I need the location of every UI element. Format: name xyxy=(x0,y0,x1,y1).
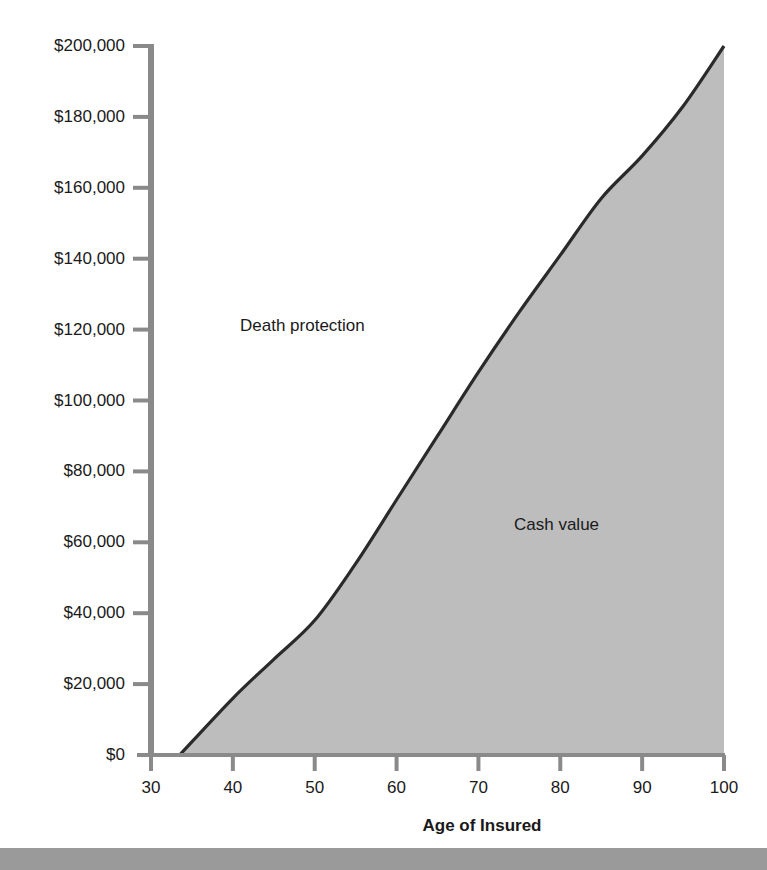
cash-value-area xyxy=(180,46,724,755)
y-tick-label: $200,000 xyxy=(5,36,125,56)
y-tick-label: $120,000 xyxy=(5,320,125,340)
y-tick-label: $180,000 xyxy=(5,107,125,127)
x-axis-label: Age of Insured xyxy=(362,816,602,836)
y-tick-label: $40,000 xyxy=(5,603,125,623)
y-tick-label: $160,000 xyxy=(5,178,125,198)
x-tick-label: 70 xyxy=(453,778,503,798)
death-protection-label: Death protection xyxy=(240,316,365,336)
cash-value-label: Cash value xyxy=(514,515,599,535)
x-tick-label: 30 xyxy=(126,778,176,798)
y-tick-label: $80,000 xyxy=(5,461,125,481)
x-tick-label: 40 xyxy=(208,778,258,798)
bottom-divider-bar xyxy=(0,848,767,870)
x-tick-label: 80 xyxy=(535,778,585,798)
y-tick-label: $0 xyxy=(5,745,125,765)
x-tick-label: 100 xyxy=(699,778,749,798)
y-tick-label: $140,000 xyxy=(5,249,125,269)
y-tick-label: $100,000 xyxy=(5,391,125,411)
x-tick-label: 50 xyxy=(290,778,340,798)
x-tick-label: 60 xyxy=(372,778,422,798)
y-tick-label: $60,000 xyxy=(5,532,125,552)
x-tick-label: 90 xyxy=(617,778,667,798)
y-tick-label: $20,000 xyxy=(5,674,125,694)
plot-area xyxy=(0,0,767,870)
cash-value-chart: $0$20,000$40,000$60,000$80,000$100,000$1… xyxy=(0,0,767,870)
